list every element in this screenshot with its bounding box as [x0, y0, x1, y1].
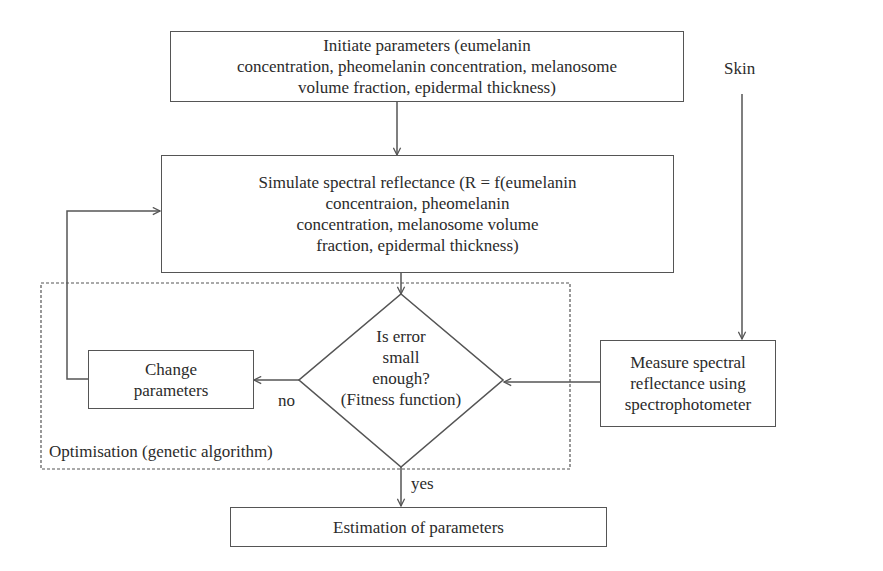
estimation-box: Estimation of parameters — [230, 507, 607, 547]
change-parameters-box: Change parameters — [88, 350, 254, 409]
skin-label: Skin — [724, 59, 755, 79]
simulate-reflectance-box: Simulate spectral reflectance (R = f(eum… — [161, 155, 674, 273]
estimation-text: Estimation of parameters — [333, 517, 504, 538]
measure-reflectance-box: Measure spectral reflectance using spect… — [600, 340, 776, 427]
decision-text: Is error small enough? (Fitness function… — [331, 326, 471, 410]
initiate-parameters-text: Initiate parameters (eumelanin concentra… — [237, 35, 617, 98]
yes-label: yes — [411, 474, 434, 494]
change-parameters-text: Change parameters — [134, 359, 209, 401]
measure-reflectance-text: Measure spectral reflectance using spect… — [625, 352, 752, 415]
initiate-parameters-box: Initiate parameters (eumelanin concentra… — [170, 31, 684, 102]
no-label: no — [278, 391, 295, 411]
simulate-reflectance-text: Simulate spectral reflectance (R = f(eum… — [259, 172, 577, 256]
optimisation-label: Optimisation (genetic algorithm) — [49, 442, 273, 462]
